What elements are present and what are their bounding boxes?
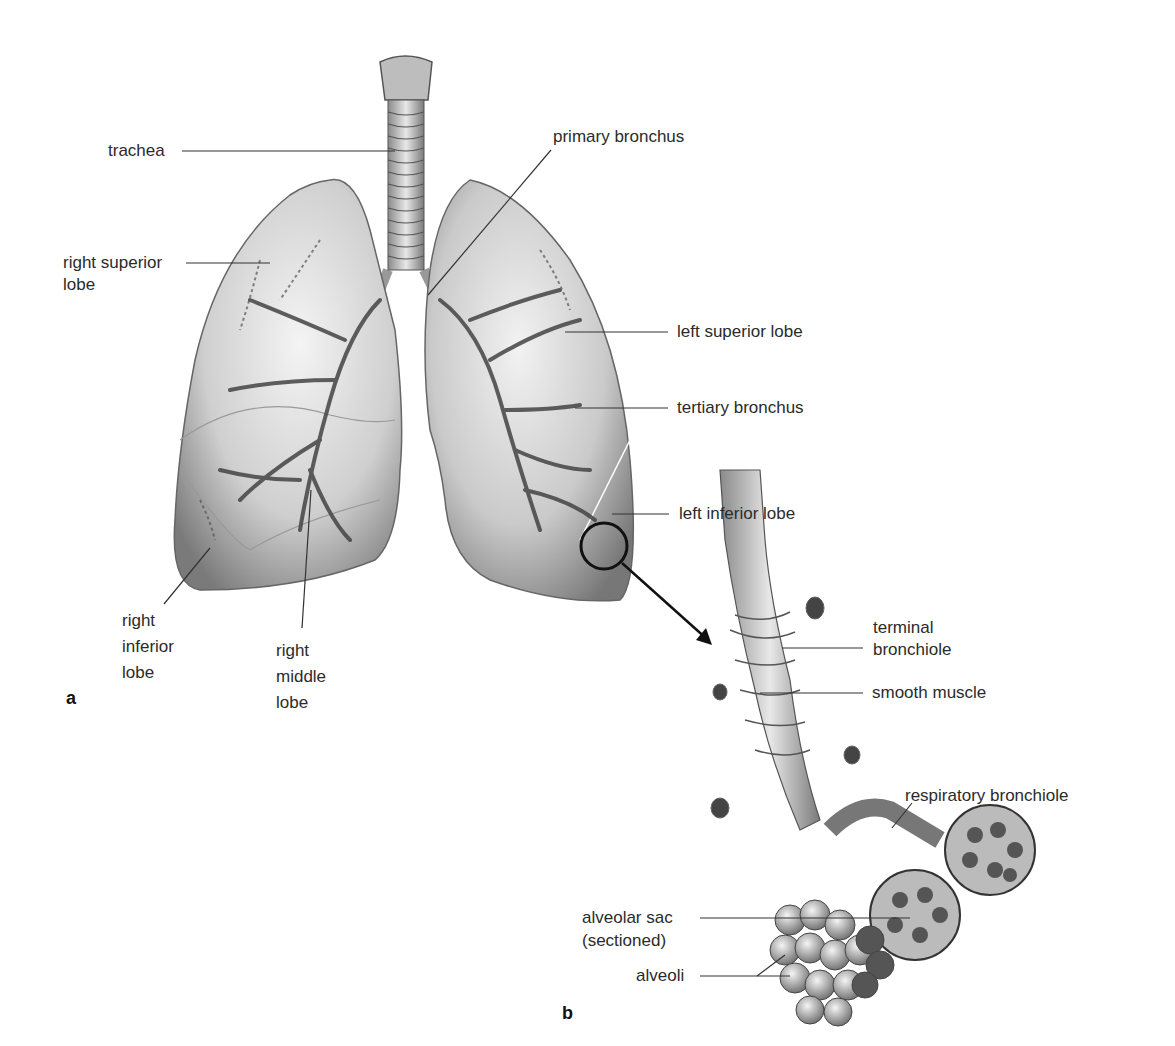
- label-primary-bronchus: primary bronchus: [553, 126, 684, 148]
- label-alveolar-sac-line2: (sectioned): [582, 930, 666, 952]
- label-left-superior-lobe: left superior lobe: [677, 321, 803, 343]
- label-left-inferior-lobe: left inferior lobe: [679, 503, 795, 525]
- label-smooth-muscle: smooth muscle: [872, 682, 986, 704]
- label-alveoli: alveoli: [636, 965, 684, 987]
- label-alveolar-sac-line1: alveolar sac: [582, 907, 673, 929]
- label-terminal-bronchiole-line1: terminal: [873, 617, 933, 639]
- lung-anatomy-figure: trachea primary bronchus right superior …: [0, 0, 1175, 1046]
- label-right-middle-lobe-line2: middle: [276, 666, 326, 688]
- label-right-inferior-lobe-line3: lobe: [122, 662, 154, 684]
- label-tertiary-bronchus: tertiary bronchus: [677, 397, 804, 419]
- right-lung-shape: [174, 180, 401, 590]
- label-respiratory-bronchiole: respiratory bronchiole: [905, 785, 1068, 807]
- label-right-inferior-lobe-line2: inferior: [122, 636, 174, 658]
- left-lung-shape: [425, 180, 633, 601]
- label-right-superior-lobe-line1: right superior: [63, 252, 162, 274]
- bronchiole-illustration: [711, 470, 1035, 1026]
- label-right-middle-lobe-line1: right: [276, 640, 309, 662]
- label-right-middle-lobe-line3: lobe: [276, 692, 308, 714]
- lung-illustration: [0, 0, 1175, 1046]
- label-trachea: trachea: [108, 140, 165, 162]
- label-right-superior-lobe-line2: lobe: [63, 274, 95, 296]
- panel-label-b: b: [562, 1003, 573, 1024]
- label-right-inferior-lobe-line1: right: [122, 610, 155, 632]
- label-terminal-bronchiole-line2: bronchiole: [873, 639, 951, 661]
- sectioned-alveolar-sac: [870, 805, 1035, 960]
- panel-label-a: a: [66, 688, 76, 709]
